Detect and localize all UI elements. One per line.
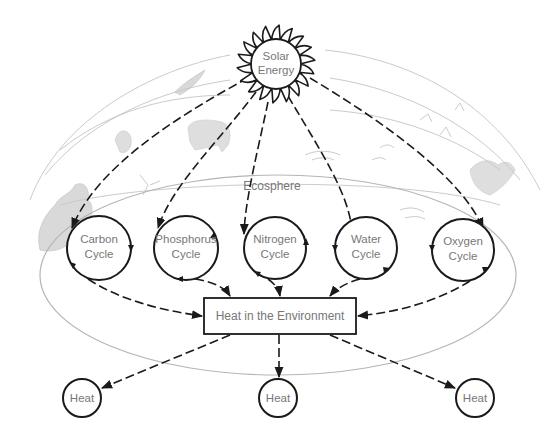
cycle-phosphorus: Phosphorus Cycle: [154, 216, 218, 282]
heat-label: Heat: [70, 392, 95, 404]
heat-label: Heat: [266, 392, 291, 404]
heat-in-environment-label: Heat in the Environment: [216, 309, 345, 323]
cycle-water: Water Cycle: [332, 217, 397, 279]
heat-output-right: Heat: [456, 379, 494, 417]
cycle-label-line1: Oxygen: [443, 235, 483, 247]
solar-energy-label-line1: Solar: [263, 50, 290, 62]
cycle-label-line1: Nitrogen: [253, 233, 296, 245]
cycle-label-line1: Carbon: [80, 233, 118, 245]
cycle-label-line2: Cycle: [449, 250, 478, 262]
ecosphere-label: Ecosphere: [243, 179, 301, 193]
cycle-label-line1: Phosphorus: [155, 233, 217, 245]
cycle-label-line2: Cycle: [172, 248, 201, 260]
cycle-label-line2: Cycle: [352, 248, 381, 260]
cycle-label-line2: Cycle: [85, 248, 114, 260]
cycle-label-line2: Cycle: [261, 248, 290, 260]
heat-label: Heat: [463, 392, 488, 404]
cycle-oxygen: Oxygen Cycle: [429, 219, 494, 281]
heat-output-center: Heat: [259, 379, 297, 417]
ecosphere-energy-flow-diagram: Ecosphere Solar Energy Carbon Cycle Phos…: [0, 0, 559, 443]
heat-in-environment-box: Heat in the Environment: [204, 298, 356, 334]
heat-output-left: Heat: [63, 379, 101, 417]
solar-energy-label-line2: Energy: [258, 64, 295, 76]
cycle-nitrogen: Nitrogen Cycle: [244, 217, 309, 279]
cycle-carbon: Carbon Cycle: [67, 216, 134, 280]
cycle-label-line1: Water: [351, 233, 381, 245]
